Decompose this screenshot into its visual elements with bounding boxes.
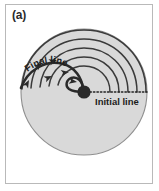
initial-line-label: Initial line [95,96,139,107]
spiral-diagram: Initial line Final line [5,4,153,184]
panel-label: (a) [12,9,26,21]
figure-panel: Initial line Final line (a) [0,0,159,191]
center-dot-icon [77,85,90,98]
